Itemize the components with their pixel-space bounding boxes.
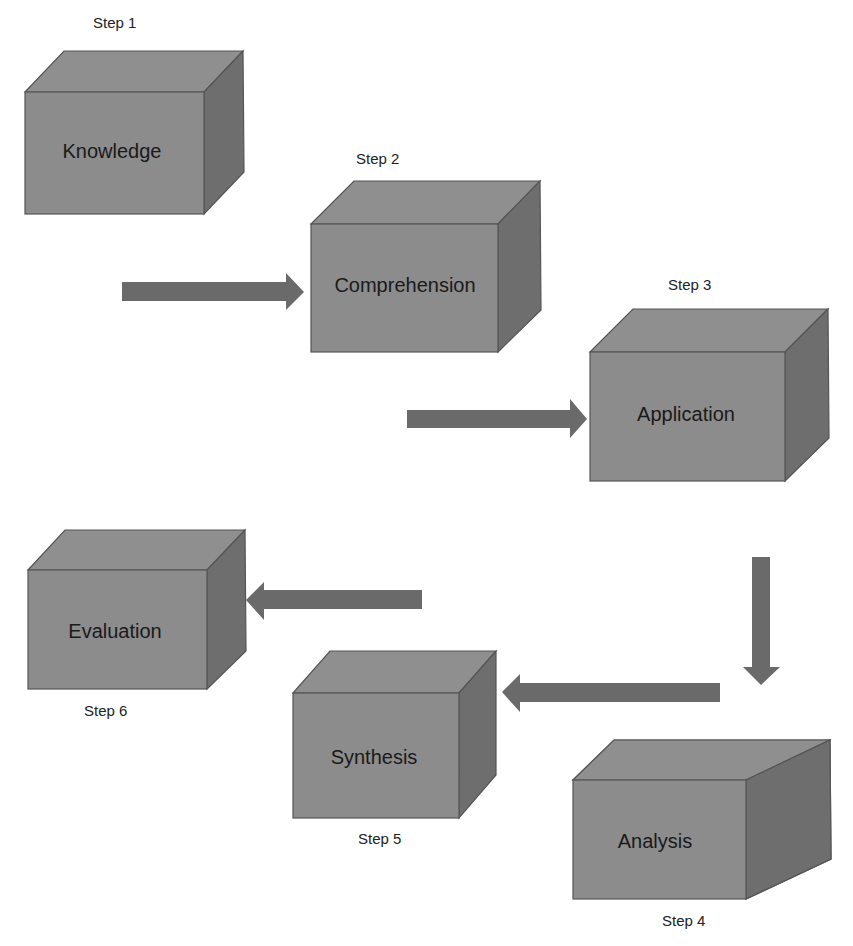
synthesis-label: Synthesis [331, 746, 418, 768]
step-2-comprehension-box: Step 2 Comprehension [311, 150, 541, 352]
arrow-left-icon [246, 582, 422, 620]
arrow-right-icon [407, 399, 587, 438]
evaluation-label: Evaluation [68, 620, 161, 642]
arrow-down-icon [743, 557, 780, 685]
knowledge-label: Knowledge [63, 140, 162, 162]
step-1-label: Step 1 [93, 14, 136, 31]
comprehension-label: Comprehension [334, 274, 475, 296]
application-label: Application [637, 403, 735, 425]
step-3-label: Step 3 [668, 276, 711, 293]
step-2-label: Step 2 [356, 150, 399, 167]
step-4-label: Step 4 [662, 912, 705, 929]
step-6-label: Step 6 [84, 702, 127, 719]
step-3-application-box: Step 3 Application [590, 276, 829, 481]
step-5-synthesis-box: Synthesis Step 5 [293, 651, 496, 847]
step-4-analysis-box: Analysis Step 4 [573, 740, 831, 929]
step-6-evaluation-box: Evaluation Step 6 [28, 530, 246, 719]
analysis-label: Analysis [618, 830, 692, 852]
step-1-knowledge-box: Step 1 Knowledge [25, 14, 244, 214]
step-5-label: Step 5 [358, 830, 401, 847]
blooms-taxonomy-diagram: Step 1 Knowledge Step 2 Comprehension St… [0, 0, 853, 946]
arrow-left-icon [502, 674, 720, 712]
arrow-right-icon [122, 273, 304, 310]
